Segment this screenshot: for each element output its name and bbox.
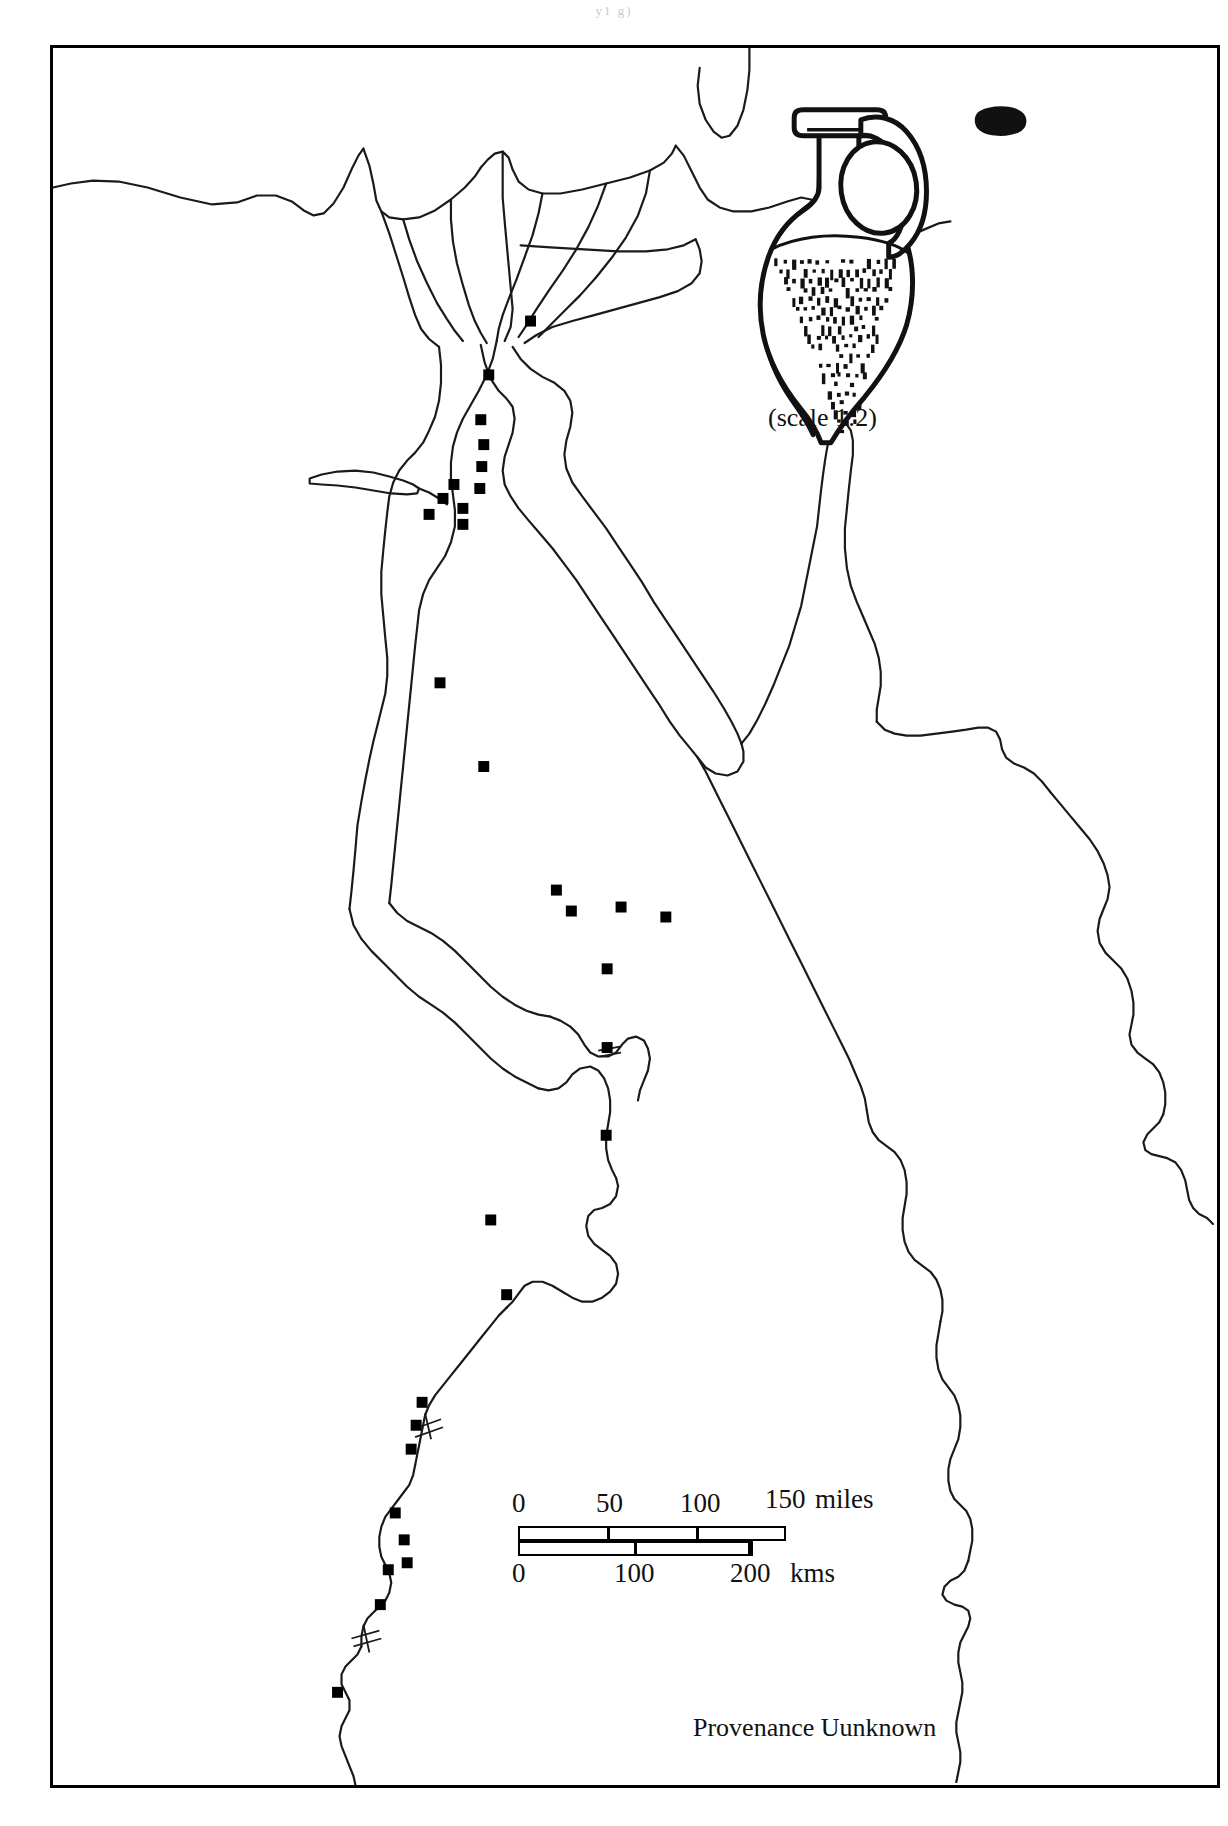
amphora-texture-mark — [863, 372, 867, 379]
amphora-texture-mark — [858, 335, 862, 342]
site-marker — [402, 1557, 413, 1568]
site-marker — [660, 912, 671, 923]
amphora-texture-mark — [839, 269, 843, 278]
site-marker — [602, 1042, 613, 1053]
amphora-texture-mark — [846, 307, 850, 311]
amphora-texture-mark — [856, 306, 860, 315]
scale-kms-tick-100: 100 — [614, 1558, 655, 1589]
amphora-texture-mark — [855, 374, 858, 377]
amphora-texture-mark — [792, 260, 796, 270]
amphora-texture-mark — [839, 354, 843, 358]
nile-qena-bend — [507, 1186, 618, 1308]
map-frame: (scale 1:2) 0 50 100 150 miles 0 100 200… — [50, 45, 1220, 1788]
amphora-texture-mark — [850, 316, 854, 325]
amphora-texture-mark — [837, 306, 841, 310]
page-header-fragment: y1 g) — [0, 0, 1228, 30]
nile-east-bank — [389, 341, 496, 903]
amphora-texture-mark — [818, 277, 822, 285]
nile-valley-middle-east — [389, 903, 550, 1017]
amphora-texture-mark — [846, 373, 850, 377]
map-page: y1 g) — [0, 0, 1228, 1826]
amphora-texture-mark — [879, 306, 883, 310]
amphora-texture-mark — [774, 258, 777, 266]
site-marker — [616, 902, 627, 913]
delta-branch-rosetta — [381, 211, 439, 347]
amphora-texture-mark — [825, 278, 829, 288]
amphora-texture-mark — [829, 288, 833, 291]
amphora-texture-mark — [784, 277, 788, 284]
site-marker — [424, 509, 435, 520]
amphora-texture-mark — [828, 391, 832, 399]
scale-kms-unit: kms — [790, 1558, 835, 1589]
amphora-texture-mark — [841, 259, 845, 262]
site-marker — [602, 963, 613, 974]
amphora-texture-mark — [822, 373, 825, 384]
amphora-texture-mark — [892, 259, 896, 269]
amphora-texture-mark — [831, 373, 835, 377]
nile-valley-middle-west — [349, 909, 538, 1088]
amphora-inset — [760, 107, 1025, 442]
amphora-texture-mark — [819, 364, 822, 368]
faiyum-oasis — [310, 471, 419, 495]
delta-northwest-lagoon — [363, 149, 480, 220]
gulf-of-suez-west-shore — [481, 345, 698, 758]
amphora-texture-mark — [889, 269, 892, 280]
amphora-texture-mark — [812, 306, 815, 310]
site-marker — [525, 316, 536, 327]
amphora-texture-mark — [787, 287, 791, 291]
amphora-texture-mark — [885, 278, 889, 288]
scale-kms-tick-200: 200 — [730, 1558, 771, 1589]
amphora-texture-mark — [821, 287, 825, 294]
red-sea-egyptian-coast-mid — [867, 1110, 943, 1321]
amphora-texture-mark — [876, 335, 879, 344]
aqaba-head-arabian-shore — [877, 722, 1050, 792]
amphora-texture-mark — [830, 270, 833, 281]
amphora-texture-mark — [859, 315, 862, 320]
amphora-texture-mark — [815, 260, 819, 264]
amphora-texture-mark — [836, 344, 839, 351]
site-marker — [501, 1289, 512, 1300]
amphora-texture-mark — [843, 364, 847, 369]
site-marker — [383, 1564, 394, 1575]
amphora-texture-mark — [832, 336, 836, 344]
amphora-texture-mark — [816, 315, 820, 320]
amphora-texture-mark — [828, 326, 831, 336]
amphora-texture-mark — [846, 270, 850, 277]
amphora-texture-mark — [877, 260, 881, 264]
amphora-texture-mark — [852, 343, 855, 348]
scale-miles-bar — [518, 1526, 786, 1541]
site-marker — [435, 677, 446, 688]
gulf-of-suez-east-shore — [513, 347, 742, 744]
levant-coast — [698, 48, 750, 138]
amphora-texture-mark — [800, 260, 804, 264]
amphora-texture-mark — [842, 317, 845, 326]
delta-branch-mid-a — [451, 199, 487, 343]
amphora-texture-mark — [876, 277, 879, 287]
amphora-texture-mark — [842, 277, 846, 287]
amphora-texture-mark — [838, 326, 842, 334]
amphora-texture-mark — [812, 287, 816, 296]
red-sea-egyptian-coast-south — [942, 1561, 970, 1782]
amphora-texture-mark — [850, 278, 854, 281]
amphora-texture-mark — [867, 259, 871, 269]
site-marker — [406, 1444, 417, 1455]
amphora-texture-mark — [862, 268, 866, 273]
amphora-texture-mark — [866, 354, 869, 358]
amphora-texture-mark — [830, 307, 833, 316]
red-sea-egyptian-coast — [698, 758, 867, 1111]
amphora-texture-mark — [811, 344, 814, 348]
amphora-texture-mark — [844, 344, 848, 347]
amphora-texture-mark — [875, 317, 879, 321]
amphora-texture-mark — [845, 391, 849, 395]
amphora-texture-mark — [833, 317, 837, 324]
amphora-texture-mark — [800, 279, 804, 289]
amphora-texture-mark — [834, 298, 838, 307]
amphora-texture-mark — [854, 327, 858, 332]
amphora-texture-mark — [825, 260, 829, 263]
scale-kms-tick-0: 0 — [512, 1558, 526, 1589]
amphora-texture-mark — [809, 279, 813, 284]
amphora-texture-mark — [884, 298, 888, 302]
amphora-texture-mark — [821, 325, 824, 336]
site-marker — [411, 1420, 422, 1431]
amphora-texture-mark — [822, 269, 825, 273]
